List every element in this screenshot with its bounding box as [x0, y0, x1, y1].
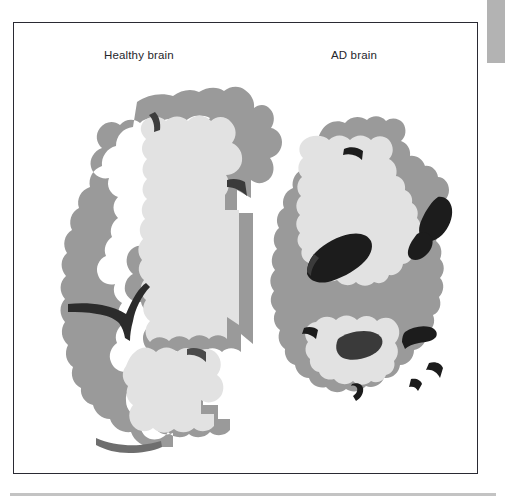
- caption-divider-rule: [10, 493, 496, 496]
- figure-frame: [13, 22, 478, 474]
- panel-label-ad-brain: AD brain: [331, 49, 377, 61]
- panel-label-healthy-brain: Healthy brain: [104, 49, 174, 61]
- page-left-margin: [0, 0, 13, 503]
- page-corner-tab: [487, 0, 505, 63]
